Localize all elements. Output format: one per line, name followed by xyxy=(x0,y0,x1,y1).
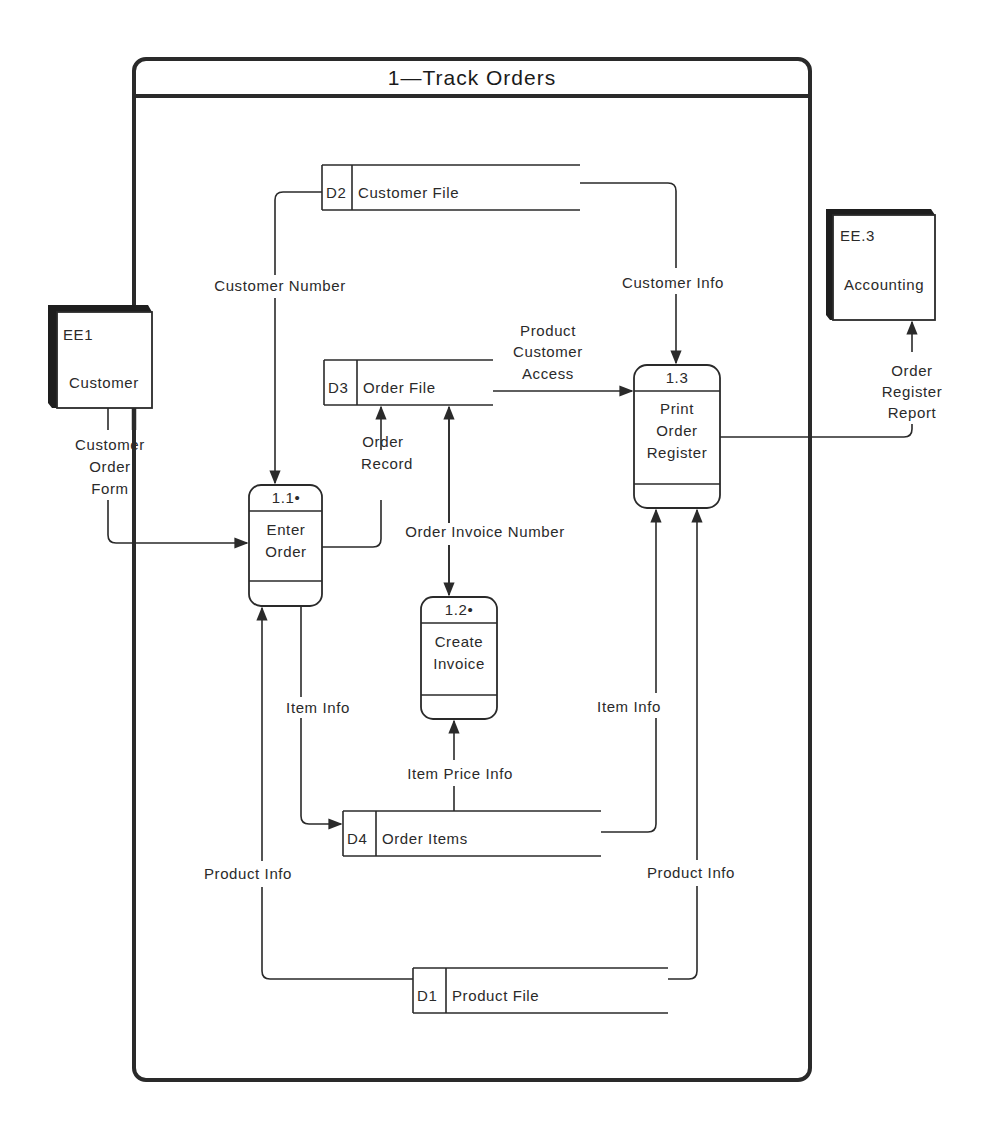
process-id: 1.3 xyxy=(666,369,689,386)
flow-label: Register xyxy=(882,383,943,400)
process-print-order-register: 1.3 Print Order Register xyxy=(634,365,720,508)
flow-item-info-to-order-items: Item Info xyxy=(286,606,350,824)
flow-product-customer-access: Product Customer Access xyxy=(493,322,632,391)
data-store-customer-file: D2 Customer File xyxy=(322,165,580,210)
store-id: D4 xyxy=(347,830,367,847)
entity-name: Customer xyxy=(69,374,139,391)
store-name: Order Items xyxy=(382,830,468,847)
flow-item-info-to-register: Item Info xyxy=(597,510,661,832)
data-flow-diagram: 1—Track Orders EE1 Customer EE.3 Account… xyxy=(0,0,987,1126)
flow-order-register-report: Order Register Report xyxy=(720,322,942,437)
flow-customer-order-form: Customer Order Form xyxy=(75,408,247,543)
store-name: Customer File xyxy=(358,184,459,201)
external-entity-accounting: EE.3 Accounting xyxy=(826,209,935,320)
flow-order-invoice-number: Order Invoice Number xyxy=(405,407,565,595)
entity-id: EE1 xyxy=(63,326,93,343)
entity-name: Accounting xyxy=(844,276,924,293)
process-name-line: Enter xyxy=(267,521,306,538)
flow-item-price-info: Item Price Info xyxy=(407,721,513,811)
process-enter-order: 1.1• Enter Order xyxy=(249,485,322,606)
data-store-product-file: D1 Product File xyxy=(413,968,668,1013)
external-entity-customer: EE1 Customer xyxy=(48,305,152,408)
flow-label: Report xyxy=(888,404,937,421)
process-id: 1.2• xyxy=(445,601,474,618)
flow-product-info-to-enter-order: Product Info xyxy=(204,608,413,979)
process-create-invoice: 1.2• Create Invoice xyxy=(421,597,497,719)
flow-label: Record xyxy=(361,455,413,472)
flow-label: Order xyxy=(89,458,130,475)
entity-id: EE.3 xyxy=(840,227,875,244)
flow-customer-info: Customer Info xyxy=(580,183,724,363)
data-store-order-file: D3 Order File xyxy=(324,360,493,405)
process-id: 1.1• xyxy=(272,489,301,506)
flow-label: Product Info xyxy=(647,864,735,881)
process-frame: 1—Track Orders xyxy=(134,59,810,1080)
flow-label: Order xyxy=(362,433,403,450)
flow-label: Order xyxy=(891,362,932,379)
process-name-line: Order xyxy=(656,422,697,439)
flow-label: Item Price Info xyxy=(407,765,513,782)
flow-label: Order Invoice Number xyxy=(405,523,565,540)
store-name: Product File xyxy=(452,987,539,1004)
process-name-line: Order xyxy=(265,543,306,560)
flow-label: Form xyxy=(91,480,128,497)
data-store-order-items: D4 Order Items xyxy=(343,811,601,856)
flow-label: Access xyxy=(522,365,574,382)
process-name-line: Print xyxy=(660,400,694,417)
flow-customer-number: Customer Number xyxy=(214,192,346,483)
flow-label: Customer xyxy=(513,343,583,360)
store-id: D2 xyxy=(326,184,346,201)
flow-label: Item Info xyxy=(597,698,661,715)
store-id: D3 xyxy=(328,379,348,396)
diagram-title: 1—Track Orders xyxy=(388,66,556,89)
flow-label: Item Info xyxy=(286,699,350,716)
process-name-line: Invoice xyxy=(433,655,485,672)
flow-label: Customer xyxy=(75,436,145,453)
flow-label: Product Info xyxy=(204,865,292,882)
store-name: Order File xyxy=(363,379,436,396)
process-name-line: Create xyxy=(435,633,484,650)
store-id: D1 xyxy=(417,987,437,1004)
process-name-line: Register xyxy=(647,444,708,461)
flow-label: Customer Number xyxy=(214,277,346,294)
flow-product-info-to-register: Product Info xyxy=(647,510,735,979)
flow-label: Customer Info xyxy=(622,274,724,291)
flow-order-record: Order Record xyxy=(322,407,413,547)
flow-label: Product xyxy=(520,322,576,339)
